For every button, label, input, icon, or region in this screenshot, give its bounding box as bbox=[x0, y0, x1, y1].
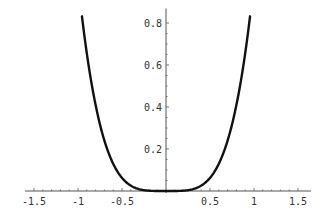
tick-labels: -1.5-1-0.50.511.50.20.40.60.8 bbox=[22, 18, 307, 208]
y-tick-label: 0.2 bbox=[144, 144, 162, 155]
axes bbox=[25, 9, 311, 194]
x-tick-label: 0.5 bbox=[201, 196, 219, 207]
x-tick-label: -1 bbox=[72, 196, 84, 207]
y-tick-label: 0.8 bbox=[144, 18, 162, 29]
y-tick-label: 0.4 bbox=[144, 102, 162, 113]
x-tick-label: -1.5 bbox=[22, 196, 46, 207]
plot-area: -1.5-1-0.50.511.50.20.40.60.8 bbox=[0, 0, 326, 217]
x-tick-label: 1 bbox=[251, 196, 257, 207]
x-tick-label: -0.5 bbox=[110, 196, 134, 207]
x-tick-label: 1.5 bbox=[289, 196, 307, 207]
y-tick-label: 0.6 bbox=[144, 60, 162, 71]
